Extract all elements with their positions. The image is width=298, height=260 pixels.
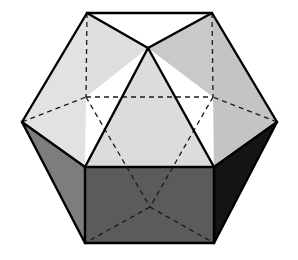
- face-front-rect: [85, 167, 214, 243]
- cuboctahedron-figure: [0, 0, 298, 260]
- polyhedron-illustration: [0, 0, 298, 260]
